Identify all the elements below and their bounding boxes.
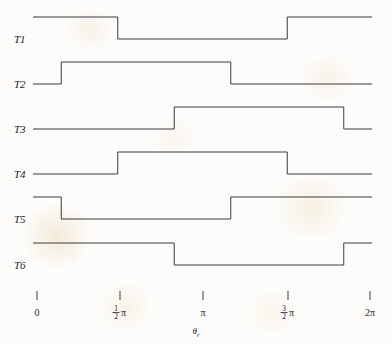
waveform-t3 [33,107,372,129]
fraction-denominator: 2 [114,312,118,321]
waveform-group [33,17,372,265]
row-label-t4: T4 [14,168,26,180]
row-label-t1: T1 [14,33,26,45]
axis-tick-group [37,291,370,300]
timing-diagram-figure: T1T2T3T4T5T6 012ππ32π2π θr [0,0,392,344]
row-label-t5: T5 [14,213,26,225]
waveform-t4 [33,152,372,174]
tick-label-text: π [200,307,205,318]
axis-title-subscript: r [197,331,200,338]
row-label-t2: T2 [14,78,26,90]
axis-tick-label: 12π [113,304,127,321]
axis-tick-label-group: 012ππ32π2π [35,304,376,321]
axis-title-group: θr [193,326,200,338]
fraction-suffix: π [121,307,126,318]
fraction-suffix: π [289,307,294,318]
axis-tick-label: π [200,307,205,318]
row-label-t6: T6 [14,259,26,271]
axis-tick-label: 0 [35,307,40,318]
row-label-group: T1T2T3T4T5T6 [14,33,26,271]
waveform-t5 [33,197,372,219]
waveform-t2 [33,62,372,84]
fraction-denominator: 2 [282,312,286,321]
axis-tick-label: 32π [281,304,295,321]
axis-tick-label: 2π [365,307,375,318]
tick-label-text: 0 [35,307,40,318]
timing-diagram-canvas: T1T2T3T4T5T6 012ππ32π2π θr [0,0,392,344]
axis-title: θr [193,326,200,338]
row-label-t3: T3 [14,123,26,135]
waveform-t1 [33,17,372,39]
waveform-t6 [33,243,372,265]
tick-label-text: 2π [365,307,375,318]
